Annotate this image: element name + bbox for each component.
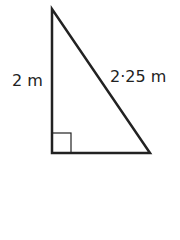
vertical-side-label: 2 m bbox=[12, 73, 43, 89]
hypotenuse-label: 2·25 m bbox=[110, 69, 166, 85]
right-angle-marker bbox=[52, 133, 71, 153]
